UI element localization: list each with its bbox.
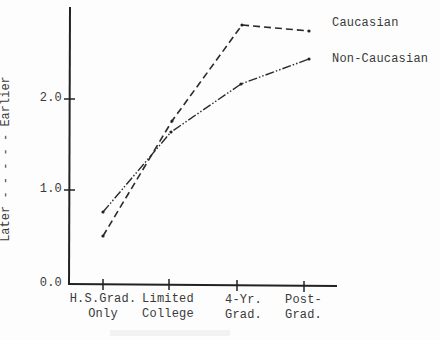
series-non-caucasian-markers — [101, 57, 310, 213]
series-caucasian-markers — [101, 23, 310, 237]
x-label-line-1: Limited — [133, 292, 203, 307]
faded-caption-remnant — [110, 330, 230, 336]
series-non-caucasian-line — [103, 59, 309, 212]
x-label-line-1: H.S.Grad. — [68, 292, 138, 307]
x-label-post-grad: Post- Grad. — [285, 293, 322, 323]
series-caucasian-line — [103, 25, 309, 236]
y-tick-label-2: 2.0 — [22, 91, 62, 105]
x-label-line-2: Grad. — [225, 308, 262, 323]
y-axis-label: Later - - - - - Earlier — [0, 59, 13, 259]
y-tick-label-0: 0.0 — [22, 276, 62, 290]
x-label-4yr-grad: 4-Yr. Grad. — [225, 293, 262, 323]
x-label-limited-college: Limited College — [133, 292, 203, 322]
x-axis — [68, 284, 337, 286]
x-label-line-1: 4-Yr. — [225, 293, 262, 308]
legend-non-caucasian: Non-Caucasian — [332, 52, 428, 66]
line-chart — [0, 0, 440, 340]
y-tick-label-1: 1.0 — [22, 182, 62, 196]
legend-caucasian: Caucasian — [332, 16, 399, 30]
x-label-line-2: College — [133, 307, 203, 322]
x-label-line-1: Post- — [285, 293, 322, 308]
x-label-line-2: Grad. — [285, 308, 322, 323]
x-label-line-2: Only — [68, 307, 138, 322]
x-label-hs-grad: H.S.Grad. Only — [68, 292, 138, 322]
y-axis — [69, 7, 70, 285]
